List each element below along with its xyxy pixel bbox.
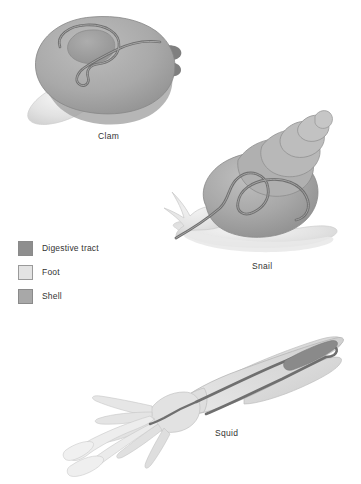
clam-stomach xyxy=(68,30,115,64)
clam-illustration xyxy=(28,17,182,125)
clam-shell xyxy=(35,17,175,114)
snail-illustration xyxy=(164,111,337,253)
legend-swatch-foot xyxy=(18,265,33,280)
caption-snail: Snail xyxy=(252,261,272,271)
legend-swatch-shell xyxy=(18,289,33,304)
legend-label-shell: Shell xyxy=(42,291,62,301)
snail-shell-apex xyxy=(315,111,332,129)
legend-label-digestive-tract: Digestive tract xyxy=(42,243,99,253)
mollusc-body-plan-figure: Clam Snail Squid Digestive tract Foot Sh… xyxy=(0,0,361,484)
legend-item-shell: Shell xyxy=(18,288,99,304)
legend-item-digestive-tract: Digestive tract xyxy=(18,240,99,256)
legend-label-foot: Foot xyxy=(42,267,60,277)
legend-swatch-digestive-tract xyxy=(18,241,33,256)
caption-clam: Clam xyxy=(98,131,119,141)
caption-squid: Squid xyxy=(215,428,238,438)
legend-item-foot: Foot xyxy=(18,264,99,280)
legend: Digestive tract Foot Shell xyxy=(18,240,99,312)
squid-illustration xyxy=(63,337,343,477)
